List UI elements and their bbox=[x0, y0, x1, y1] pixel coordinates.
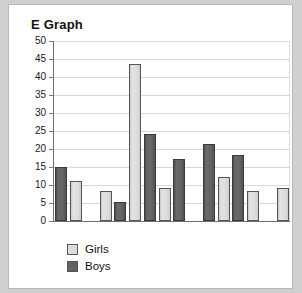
chart-legend: Girls Boys bbox=[67, 241, 111, 275]
bar-girls-2 bbox=[70, 181, 82, 221]
bar-boys-7 bbox=[144, 134, 156, 221]
gridline bbox=[54, 41, 290, 42]
legend-item-girls: Girls bbox=[67, 241, 111, 258]
bar-girls-16 bbox=[277, 188, 289, 221]
y-tick-label: 15 bbox=[35, 162, 46, 172]
bar-boys-5 bbox=[114, 202, 126, 221]
y-tick-label: 25 bbox=[35, 126, 46, 136]
gridline bbox=[54, 59, 290, 60]
gridline bbox=[54, 167, 290, 168]
gridline bbox=[54, 149, 290, 150]
legend-swatch-boys-icon bbox=[67, 261, 78, 272]
y-tick-label: 30 bbox=[35, 108, 46, 118]
y-tick-label: 0 bbox=[40, 216, 46, 226]
y-tick-label: 20 bbox=[35, 144, 46, 154]
gridline bbox=[54, 185, 290, 186]
page-edge-left bbox=[0, 0, 8, 293]
y-tick-label: 45 bbox=[35, 54, 46, 64]
plot-area bbox=[53, 41, 290, 222]
legend-swatch-girls-icon bbox=[67, 244, 78, 255]
y-tick-label: 5 bbox=[40, 198, 46, 208]
legend-label-boys: Boys bbox=[85, 261, 111, 273]
y-tick-label: 35 bbox=[35, 90, 46, 100]
y-tick-label: 50 bbox=[35, 36, 46, 46]
bar-girls-12 bbox=[218, 177, 230, 221]
legend-label-girls: Girls bbox=[85, 244, 109, 256]
legend-item-boys: Boys bbox=[67, 258, 111, 275]
gridline bbox=[54, 113, 290, 114]
bar-boys-11 bbox=[203, 144, 215, 221]
bar-boys-1 bbox=[55, 167, 67, 221]
bar-girls-14 bbox=[247, 191, 259, 221]
page-title: E Graph bbox=[31, 17, 83, 32]
y-tick-label: 40 bbox=[35, 72, 46, 82]
bar-girls-4 bbox=[100, 191, 112, 221]
gridline bbox=[54, 77, 290, 78]
gridline bbox=[54, 131, 290, 132]
page-edge-bottom bbox=[0, 289, 302, 293]
gridline bbox=[54, 95, 290, 96]
page-edge-right bbox=[293, 0, 302, 293]
bar-boys-9 bbox=[173, 159, 185, 221]
y-axis: 50454035302520151050 bbox=[27, 41, 49, 233]
chart-screenshot: E Graph 50454035302520151050 Girls Boys bbox=[0, 0, 302, 293]
chart-plot: 50454035302520151050 bbox=[27, 41, 289, 233]
y-tick-label: 10 bbox=[35, 180, 46, 190]
bar-boys-13 bbox=[232, 155, 244, 221]
bar-girls-6 bbox=[129, 64, 141, 221]
chart-card: E Graph 50454035302520151050 Girls Boys bbox=[8, 4, 293, 289]
bar-girls-8 bbox=[159, 188, 171, 221]
